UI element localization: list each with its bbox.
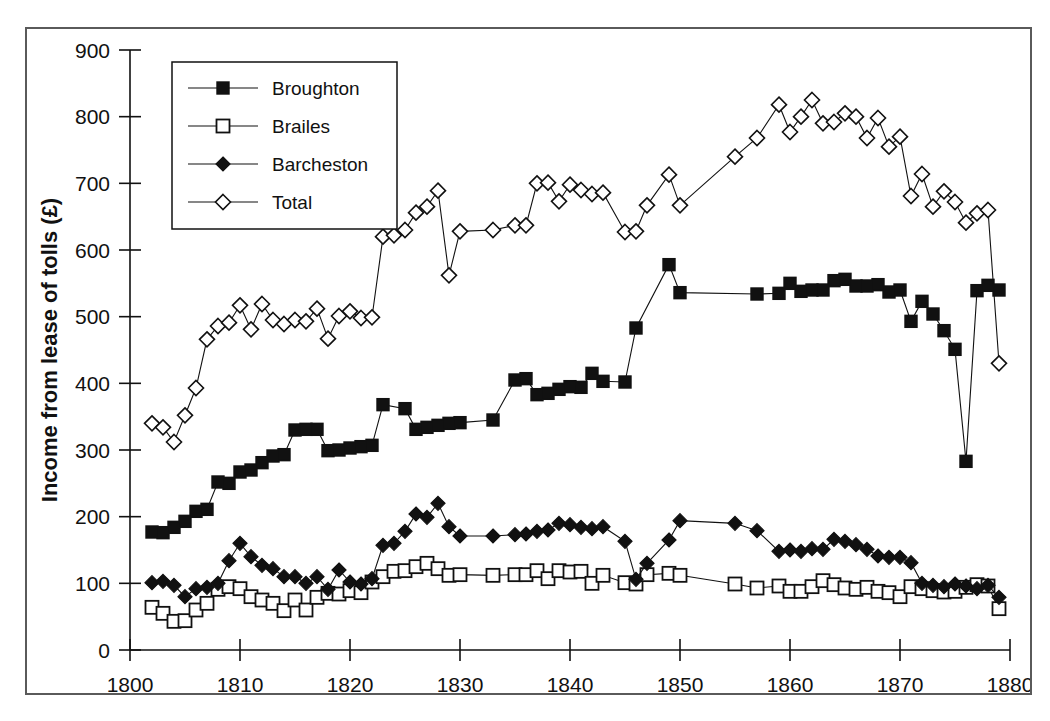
data-point-marker <box>729 578 742 591</box>
data-point-marker <box>289 424 301 436</box>
data-point-marker <box>673 514 687 528</box>
data-point-marker <box>904 189 919 204</box>
data-point-marker <box>596 520 610 534</box>
data-point-marker <box>927 308 939 320</box>
data-point-marker <box>751 582 764 595</box>
data-point-marker <box>520 373 532 385</box>
x-axis-tick-label: 1850 <box>657 673 704 693</box>
data-point-marker <box>267 450 279 462</box>
data-point-marker <box>178 408 193 423</box>
data-point-marker <box>575 565 588 578</box>
data-point-marker <box>575 381 587 393</box>
data-point-marker <box>344 442 356 454</box>
data-point-marker <box>442 520 456 534</box>
data-point-marker <box>805 93 820 108</box>
data-point-marker <box>552 194 567 209</box>
data-point-marker <box>256 457 268 469</box>
data-point-marker <box>783 125 798 140</box>
legend-label: Total <box>272 192 312 213</box>
data-point-marker <box>541 523 555 537</box>
data-point-marker <box>322 445 334 457</box>
data-point-marker <box>377 399 389 411</box>
data-point-marker <box>519 527 533 541</box>
data-point-marker <box>728 516 742 530</box>
data-point-marker <box>794 544 808 558</box>
data-point-marker <box>794 109 809 124</box>
line-chart-plot: 0100200300400500600700800900180018101820… <box>27 29 1030 693</box>
data-point-marker <box>255 297 270 312</box>
data-point-marker <box>751 288 763 300</box>
data-point-marker <box>674 287 686 299</box>
data-point-marker <box>674 569 687 582</box>
data-point-marker <box>454 568 467 581</box>
data-point-marker <box>773 287 785 299</box>
data-point-marker <box>916 295 928 307</box>
x-axis-tick-label: 1840 <box>547 673 594 693</box>
x-axis-tick-label: 1870 <box>877 673 924 693</box>
data-point-marker <box>938 325 950 337</box>
data-point-marker <box>223 477 235 489</box>
data-point-marker <box>586 367 598 379</box>
data-point-marker <box>222 554 236 568</box>
data-point-marker <box>168 521 180 533</box>
data-point-marker <box>960 455 972 467</box>
series-broughton <box>146 259 1005 539</box>
data-point-marker <box>541 175 556 190</box>
data-point-marker <box>596 185 611 200</box>
data-point-marker <box>157 527 169 539</box>
data-point-marker <box>311 423 323 435</box>
data-point-marker <box>179 515 191 527</box>
data-point-marker <box>442 268 457 283</box>
data-point-marker <box>959 215 974 230</box>
data-point-marker <box>146 526 158 538</box>
data-point-marker <box>454 417 466 429</box>
data-point-marker <box>597 375 609 387</box>
data-point-marker <box>217 82 229 94</box>
data-point-marker <box>553 383 565 395</box>
data-point-marker <box>233 536 247 550</box>
data-point-marker <box>618 534 632 548</box>
data-point-marker <box>487 569 500 582</box>
data-point-marker <box>509 374 521 386</box>
data-point-marker <box>982 279 994 291</box>
y-axis-tick-label: 500 <box>75 305 110 328</box>
data-point-marker <box>883 286 895 298</box>
data-point-marker <box>278 449 290 461</box>
data-point-marker <box>486 223 501 238</box>
data-point-marker <box>795 285 807 297</box>
y-axis-title: Income from lease of tolls (£) <box>37 198 62 502</box>
data-point-marker <box>366 439 378 451</box>
y-axis-tick-label: 200 <box>75 505 110 528</box>
data-point-marker <box>288 570 302 584</box>
data-point-marker <box>992 356 1007 371</box>
data-point-marker <box>245 464 257 476</box>
data-point-marker <box>915 167 930 182</box>
data-point-marker <box>201 597 214 610</box>
y-axis-tick-label: 600 <box>75 239 110 262</box>
data-point-marker <box>894 284 906 296</box>
data-point-marker <box>432 419 444 431</box>
data-point-marker <box>321 331 336 346</box>
data-point-marker <box>750 131 765 146</box>
chart-legend: BroughtonBrailesBarchestonTotal <box>172 62 397 229</box>
data-point-marker <box>399 403 411 415</box>
data-point-marker <box>905 315 917 327</box>
x-axis-tick-label: 1800 <box>107 673 154 693</box>
data-point-marker <box>993 284 1005 296</box>
data-point-marker <box>200 332 215 347</box>
y-axis-tick-label: 300 <box>75 439 110 462</box>
data-point-marker <box>531 389 543 401</box>
x-axis-tick-label: 1810 <box>217 673 264 693</box>
data-point-marker <box>860 131 875 146</box>
data-point-marker <box>300 604 313 617</box>
data-point-marker <box>201 503 213 515</box>
data-point-marker <box>861 280 873 292</box>
data-point-marker <box>443 417 455 429</box>
data-point-marker <box>453 529 467 543</box>
y-axis-tick-label: 0 <box>98 639 110 662</box>
data-point-marker <box>630 322 642 334</box>
data-point-marker <box>453 224 468 239</box>
data-point-marker <box>640 198 655 213</box>
data-point-marker <box>872 279 884 291</box>
data-point-marker <box>563 518 577 532</box>
